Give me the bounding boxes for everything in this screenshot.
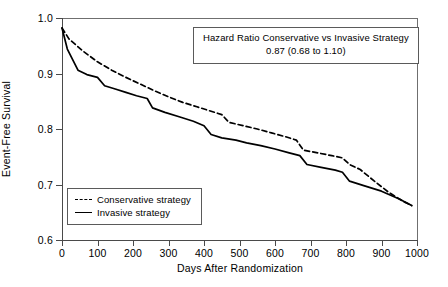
legend: Conservative strategyInvasive strategy: [67, 188, 202, 225]
x-tick-label: 400: [195, 248, 213, 259]
legend-swatch-dashed: [75, 195, 92, 205]
x-tick-mark: [382, 240, 383, 246]
x-tick-mark: [169, 240, 170, 246]
legend-label: Conservative strategy: [97, 195, 191, 205]
x-tick-mark: [275, 240, 276, 246]
survival-curve-figure: 1.00.90.80.70.6 010020030040050060070080…: [0, 0, 448, 287]
x-tick-label: 700: [301, 248, 319, 259]
y-tick-label: 1.0: [38, 13, 53, 24]
x-tick-label: 100: [88, 248, 106, 259]
x-tick-label: 1000: [405, 248, 429, 259]
hazard-ratio-annotation: Hazard Ratio Conservative vs Invasive St…: [193, 27, 419, 64]
x-tick-mark: [311, 240, 312, 246]
x-axis-label: Days After Randomization: [177, 262, 303, 274]
x-tick-label: 200: [124, 248, 142, 259]
x-tick-label: 900: [372, 248, 390, 259]
x-tick-label: 800: [337, 248, 355, 259]
y-tick-label: 0.7: [38, 179, 53, 190]
hazard-ratio-text: Hazard Ratio Conservative vs Invasive St…: [203, 32, 409, 45]
x-tick-label: 0: [59, 248, 65, 259]
x-tick-label: 500: [230, 248, 248, 259]
x-tick-mark: [62, 240, 63, 246]
x-tick-mark: [346, 240, 347, 246]
x-tick-label: 600: [266, 248, 284, 259]
x-tick-label: 300: [159, 248, 177, 259]
y-axis-label: Event-Free Survival: [0, 33, 12, 129]
x-tick-mark: [240, 240, 241, 246]
y-tick-label: 0.6: [38, 235, 53, 246]
x-tick-mark: [204, 240, 205, 246]
legend-swatch-solid: [75, 208, 92, 218]
x-tick-mark: [98, 240, 99, 246]
y-tick-label: 0.8: [38, 124, 53, 135]
legend-label: Invasive strategy: [97, 208, 170, 218]
x-tick-mark: [133, 240, 134, 246]
legend-item: Conservative strategy: [75, 193, 191, 206]
y-axis-label-text: Event-Free Survival: [0, 81, 12, 177]
x-tick-mark: [417, 240, 418, 246]
legend-item: Invasive strategy: [75, 206, 191, 219]
y-tick-label: 0.9: [38, 68, 53, 79]
hazard-ratio-value: 0.87 (0.68 to 1.10): [203, 45, 409, 58]
